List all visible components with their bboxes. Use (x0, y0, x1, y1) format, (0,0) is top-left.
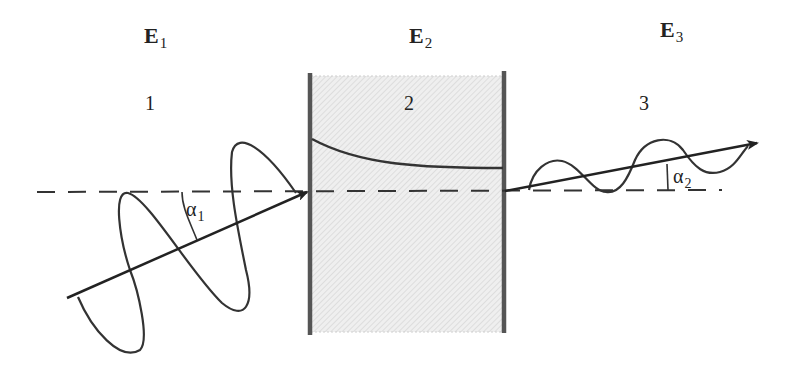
alpha2-angle-arc (667, 164, 668, 190)
label-e3: E3 (660, 17, 683, 45)
label-e2: E2 (409, 23, 432, 51)
label-alpha-2: α2 (673, 165, 691, 191)
incident-wave (78, 143, 296, 353)
label-e1: E1 (144, 23, 167, 51)
wave-refraction-diagram: E1 E2 E3 1 2 3 α1 α2 (0, 0, 798, 381)
medium-2-slab (311, 76, 504, 332)
normal-dashed-line (37, 190, 722, 192)
label-region-1: 1 (145, 92, 155, 114)
label-region-3: 3 (639, 92, 649, 114)
label-region-2: 2 (404, 92, 414, 114)
